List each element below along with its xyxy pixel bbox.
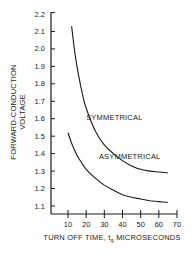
y-tick-label: 2.0	[35, 44, 45, 53]
series-label-asymmetrical: ASYMMETRICAL	[99, 152, 161, 161]
y-tick-label: 1.4	[35, 149, 45, 158]
x-axis: 10203040506070	[51, 210, 181, 229]
x-tick-label: 70	[173, 220, 181, 229]
y-tick-label: 1.5	[35, 132, 45, 141]
y-tick-label: 1.6	[35, 114, 45, 123]
y-axis-label-line2: VOLTAGE	[18, 94, 27, 130]
y-tick-label: 1.1	[35, 202, 45, 211]
y-axis-label-line1: FORWARD-CONDUCTION	[9, 64, 18, 159]
y-tick-label: 2.2	[35, 10, 45, 19]
x-tick-label: 40	[118, 220, 126, 229]
series-label-symmetrical: SYMMETRICAL	[86, 113, 142, 122]
y-tick-label: 1.3	[35, 167, 45, 176]
y-tick-label: 1.9	[35, 62, 45, 71]
y-tick-label: 1.8	[35, 79, 45, 88]
chart: 1.11.21.31.41.51.61.71.81.92.02.12.2 102…	[0, 0, 196, 264]
x-tick-label: 10	[64, 220, 72, 229]
series-group: SYMMETRICALASYMMETRICAL	[68, 26, 168, 202]
y-tick-label: 1.2	[35, 184, 45, 193]
x-axis-label: TURN OFF TIME, tq MICROSECONDS	[43, 233, 180, 243]
x-tick-label: 60	[155, 220, 163, 229]
series-line-asymmetrical	[68, 133, 168, 203]
x-tick-label: 50	[136, 220, 144, 229]
y-axis: 1.11.21.31.41.51.61.71.81.92.02.12.2	[35, 10, 55, 215]
y-tick-label: 1.7	[35, 97, 45, 106]
x-tick-label: 30	[100, 220, 108, 229]
series-line-symmetrical	[72, 26, 168, 173]
x-tick-label: 20	[82, 220, 90, 229]
y-tick-label: 2.1	[35, 27, 45, 36]
